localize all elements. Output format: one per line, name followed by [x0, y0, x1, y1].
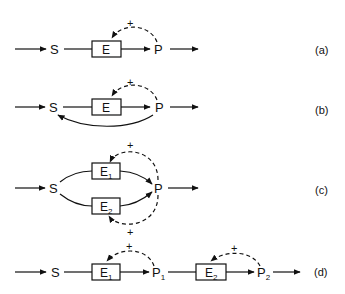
substrate-label: S [50, 42, 59, 57]
reaction-arrow-2 [120, 192, 152, 206]
substrate-line-upper [60, 171, 92, 182]
enzyme-label: E [102, 101, 110, 115]
substrate-line-lower [60, 194, 92, 206]
reaction-arrow-1 [120, 171, 152, 184]
panel-a: S E P + (a) [15, 17, 328, 57]
product-label: P [154, 181, 163, 196]
substrate-label: S [49, 100, 58, 115]
enzyme-feedback-diagram: S E P + (a) S E P + (b) S E1 E2 P [0, 0, 345, 294]
feedback-arc [112, 85, 157, 100]
panel-label: (d) [314, 266, 327, 278]
panel-label: (b) [315, 104, 328, 116]
panel-b: S E P + (b) [15, 76, 328, 126]
product-2-label: P2 [257, 265, 271, 282]
panel-label: (a) [315, 44, 328, 56]
product-recycle-arc [58, 115, 153, 126]
product-label: P [155, 100, 164, 115]
substrate-label: S [49, 181, 58, 196]
product-1-label: P1 [152, 265, 166, 282]
feedback-arc [112, 27, 157, 42]
substrate-label: S [51, 265, 60, 280]
panel-label: (c) [315, 184, 328, 196]
feedback-sign-1: + [126, 240, 132, 252]
feedback-sign-1: + [127, 139, 133, 151]
panel-d: S E1 P1 E2 P2 + + (d) [15, 240, 327, 282]
feedback-sign-2: + [231, 242, 237, 254]
enzyme-label: E [102, 43, 110, 57]
feedback-sign-2: + [127, 226, 133, 238]
panel-c: S E1 E2 P + + (c) [15, 139, 328, 238]
product-label: P [154, 42, 163, 57]
feedback-sign: + [127, 17, 133, 29]
feedback-sign: + [127, 76, 133, 88]
